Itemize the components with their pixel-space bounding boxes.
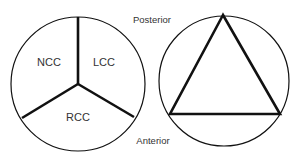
- bicuspid-triangle-valve: [159, 15, 289, 146]
- aortic-valve-diagram: NCC LCC RCC Posterior Anterior: [0, 0, 299, 159]
- label-rcc: RCC: [66, 111, 90, 123]
- label-lcc: LCC: [93, 56, 115, 68]
- tricuspid-valve: NCC LCC RCC: [11, 17, 145, 151]
- label-ncc: NCC: [37, 56, 61, 68]
- label-anterior: Anterior: [136, 135, 169, 146]
- label-posterior: Posterior: [133, 14, 171, 25]
- right-circle: [159, 16, 289, 146]
